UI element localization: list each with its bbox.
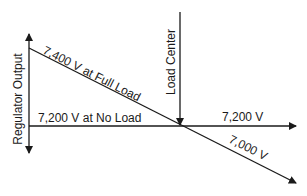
right-no-load-label: 7,200 V (222, 110, 263, 124)
voltage-regulation-diagram: Regulator Output Load Center 7,400 V at … (0, 0, 307, 196)
load-center-label: Load Center (164, 29, 178, 95)
no-load-label: 7,200 V at No Load (38, 111, 141, 125)
full-load-label: 7,400 V at Full Load (41, 43, 143, 104)
regulator-output-label: Regulator Output (11, 53, 25, 145)
